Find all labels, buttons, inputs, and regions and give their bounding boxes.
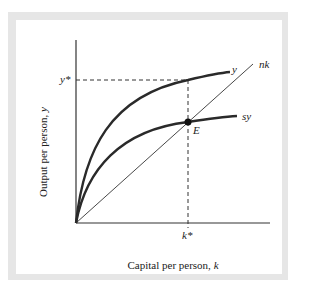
nk-line	[76, 64, 253, 223]
y-curve-label: y	[232, 63, 237, 75]
x-axis-title-text: Capital per person,	[127, 259, 213, 271]
nk-line-label: nk	[259, 58, 269, 70]
sy-curve	[76, 116, 237, 223]
equilibrium-point	[185, 119, 192, 126]
k-star-label: k*	[182, 229, 192, 241]
y-curve	[76, 72, 230, 223]
equilibrium-label: E	[193, 124, 200, 136]
sy-curve-label: sy	[242, 110, 251, 122]
y-axis-var: y	[37, 107, 49, 112]
x-axis-var: k	[214, 259, 219, 271]
y-axis-title-text: Output per person,	[37, 112, 49, 197]
y-axis-title: Output per person, y	[37, 107, 49, 197]
x-axis-title: Capital per person, k	[127, 259, 218, 271]
y-star-label: y*	[60, 73, 70, 85]
